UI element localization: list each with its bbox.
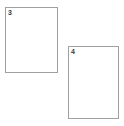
panel-region-4[interactable]: 4 xyxy=(68,46,119,119)
panel-label-4: 4 xyxy=(71,48,75,56)
diagram-canvas: 3 4 xyxy=(0,0,124,126)
panel-region-3[interactable]: 3 xyxy=(5,7,58,73)
panel-label-3: 3 xyxy=(8,9,12,17)
